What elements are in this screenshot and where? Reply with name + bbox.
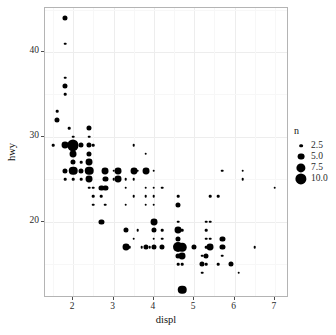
- data-point: [177, 220, 180, 223]
- data-point: [151, 245, 156, 250]
- data-point: [178, 285, 187, 294]
- grid-line-horizontal: [45, 137, 287, 138]
- data-point: [104, 203, 107, 206]
- data-point: [79, 143, 84, 148]
- data-point: [87, 126, 92, 131]
- data-point: [153, 237, 156, 240]
- legend-title: n: [294, 126, 336, 136]
- data-point: [64, 42, 67, 45]
- x-tick-mark: [153, 297, 154, 300]
- grid-line-horizontal: [45, 222, 287, 223]
- legend-entry: 5.0: [294, 151, 336, 162]
- data-point: [64, 178, 67, 181]
- x-tick-mark: [113, 297, 114, 300]
- data-point: [114, 176, 121, 183]
- data-point: [102, 167, 109, 174]
- data-point: [205, 220, 208, 223]
- data-point: [145, 203, 148, 206]
- grid-line-minor-horizontal: [45, 264, 287, 265]
- y-tick-label: 20: [30, 216, 40, 226]
- data-point: [88, 186, 91, 189]
- data-point: [153, 186, 156, 189]
- data-point: [92, 203, 95, 206]
- data-point: [103, 185, 108, 190]
- data-point: [176, 202, 181, 207]
- data-point: [159, 245, 164, 250]
- data-point: [72, 136, 75, 139]
- data-point: [132, 195, 135, 198]
- x-tick-label: 4: [151, 302, 156, 312]
- data-point: [55, 117, 60, 122]
- data-point: [80, 161, 83, 164]
- data-point: [274, 186, 277, 189]
- data-point: [64, 76, 67, 79]
- data-point: [217, 263, 220, 266]
- x-tick-mark: [193, 297, 194, 300]
- scatter-plot-figure: 234567 203040 displ hwy n 2.55.07.510.0: [0, 0, 336, 335]
- y-tick-mark: [41, 136, 44, 137]
- data-point: [217, 195, 220, 198]
- x-tick-mark: [274, 297, 275, 300]
- data-point: [161, 237, 164, 240]
- data-point: [136, 170, 139, 173]
- data-point: [63, 168, 68, 173]
- data-point: [80, 178, 83, 181]
- legend-entry: 2.5: [294, 140, 336, 151]
- data-point: [228, 262, 233, 267]
- y-tick-label: 40: [30, 46, 40, 56]
- data-point: [114, 167, 121, 174]
- data-point: [72, 178, 75, 181]
- data-point: [181, 229, 184, 232]
- data-point: [88, 136, 91, 139]
- data-point: [161, 229, 164, 232]
- data-point: [209, 220, 212, 223]
- data-point: [99, 219, 104, 224]
- data-point: [69, 167, 78, 176]
- data-point: [176, 236, 181, 241]
- data-point: [153, 195, 156, 198]
- data-point: [71, 160, 76, 165]
- data-point: [204, 253, 209, 258]
- legend-key-dot: [294, 173, 308, 184]
- data-point: [85, 167, 94, 176]
- data-point: [150, 218, 157, 225]
- data-point: [142, 167, 149, 174]
- data-point: [153, 203, 156, 206]
- x-axis-title: displ: [156, 314, 176, 325]
- data-point: [128, 246, 131, 249]
- data-point: [221, 254, 224, 257]
- data-point: [179, 252, 186, 259]
- x-tick-label: 5: [191, 302, 196, 312]
- grid-line-minor-vertical: [174, 8, 175, 296]
- data-point: [161, 186, 164, 189]
- data-point: [124, 178, 127, 181]
- data-point: [207, 244, 214, 251]
- data-point: [143, 245, 148, 250]
- data-point: [205, 229, 208, 232]
- legend-key-dot: [294, 151, 308, 162]
- data-point: [124, 203, 127, 206]
- grid-line-minor-vertical: [214, 8, 215, 296]
- grid-line-horizontal: [45, 52, 287, 53]
- x-tick-label: 3: [110, 302, 115, 312]
- data-point: [181, 263, 184, 266]
- data-point: [221, 170, 224, 173]
- data-point: [103, 177, 108, 182]
- grid-line-minor-vertical: [93, 8, 94, 296]
- y-axis-title: hwy: [6, 143, 17, 161]
- data-point: [68, 127, 71, 130]
- legend-entry-label: 2.5: [308, 141, 323, 151]
- data-point: [151, 228, 156, 233]
- data-point: [237, 271, 240, 274]
- data-point: [177, 263, 180, 266]
- y-tick-label: 30: [30, 131, 40, 141]
- data-point: [100, 195, 103, 198]
- data-point: [153, 170, 156, 173]
- data-point: [178, 243, 187, 252]
- data-point: [87, 151, 92, 156]
- data-point: [241, 178, 244, 181]
- data-point: [132, 178, 135, 181]
- legend-entry-label: 7.5: [308, 163, 323, 173]
- data-point: [145, 195, 148, 198]
- data-point: [124, 186, 127, 189]
